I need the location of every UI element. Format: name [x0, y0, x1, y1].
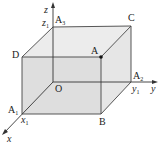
- label-y1: y1: [131, 83, 139, 95]
- label-y: y: [150, 83, 156, 94]
- label-O: O: [55, 83, 62, 94]
- label-A: A: [91, 45, 99, 56]
- label-A1: A1: [8, 104, 18, 116]
- label-z: z: [43, 4, 48, 15]
- label-x: x: [6, 133, 12, 144]
- label-z1: z1: [41, 17, 49, 29]
- label-x1: x1: [20, 114, 28, 126]
- label-A3: A3: [55, 14, 65, 26]
- label-D: D: [12, 49, 19, 60]
- box-diagram: z z1 A3 C D A O A2 y1 y A1 x1 B x: [0, 0, 162, 144]
- point-A: [99, 55, 103, 59]
- z-arrow-icon: [51, 2, 55, 8]
- label-B: B: [99, 116, 106, 127]
- label-A2: A2: [133, 70, 143, 82]
- label-C: C: [128, 12, 135, 23]
